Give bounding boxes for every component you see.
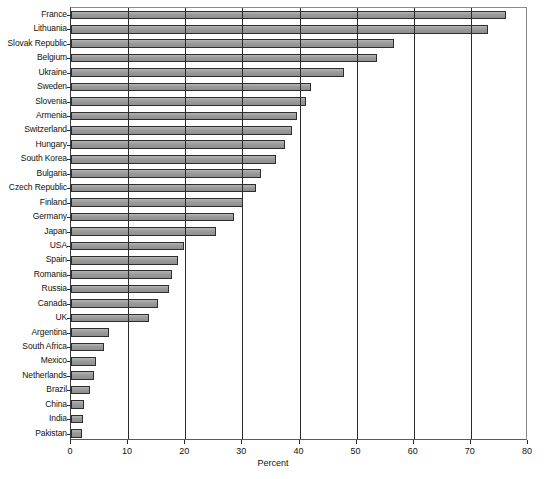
bar	[71, 25, 488, 34]
gridline-10	[128, 8, 129, 439]
category-label: Hungary	[0, 137, 67, 151]
bar-rows	[71, 8, 526, 439]
bar	[71, 357, 96, 366]
category-label: Belgium	[0, 50, 67, 64]
category-label: China	[0, 397, 67, 411]
bar-row	[71, 8, 526, 22]
bar	[71, 184, 256, 193]
bar	[71, 169, 261, 178]
bar	[71, 112, 297, 121]
bar-row	[71, 253, 526, 267]
bar-row	[71, 181, 526, 195]
bar	[71, 11, 506, 20]
bar	[71, 213, 234, 222]
bar-row	[71, 326, 526, 340]
bar-row	[71, 51, 526, 65]
gridline-50	[357, 8, 358, 439]
bar-chart: FranceLithuaniaSlovak RepublicBelgiumUkr…	[0, 0, 546, 479]
category-label: Sweden	[0, 79, 67, 93]
bar	[71, 299, 158, 308]
bar-row	[71, 311, 526, 325]
category-label: Germany	[0, 209, 67, 223]
x-tick-label: 50	[341, 446, 371, 456]
category-label: France	[0, 7, 67, 21]
bar-row	[71, 427, 526, 441]
x-tick-label: 80	[512, 446, 542, 456]
category-label: Russia	[0, 281, 67, 295]
bar	[71, 39, 394, 48]
category-label: Japan	[0, 224, 67, 238]
category-label: Ukraine	[0, 65, 67, 79]
bar	[71, 415, 83, 424]
bar	[71, 97, 306, 106]
x-tick	[299, 440, 300, 444]
bar	[71, 83, 311, 92]
bar-row	[71, 196, 526, 210]
category-label: South Korea	[0, 151, 67, 165]
gridline-30	[242, 8, 243, 439]
category-label: Argentina	[0, 325, 67, 339]
bar-row	[71, 66, 526, 80]
x-tick	[527, 440, 528, 444]
x-tick	[127, 440, 128, 444]
x-tick-label: 0	[55, 446, 85, 456]
bar-row	[71, 22, 526, 36]
category-label: Slovenia	[0, 94, 67, 108]
bar-row	[71, 109, 526, 123]
bar-row	[71, 210, 526, 224]
category-label: Romania	[0, 267, 67, 281]
bar-row	[71, 412, 526, 426]
x-axis-title: Percent	[0, 458, 546, 468]
bar	[71, 328, 109, 337]
bar	[71, 371, 94, 380]
category-label: Canada	[0, 296, 67, 310]
bar	[71, 227, 216, 236]
category-label: Lithuania	[0, 21, 67, 35]
bar-row	[71, 80, 526, 94]
bar-row	[71, 95, 526, 109]
category-label: Spain	[0, 252, 67, 266]
bar-row	[71, 398, 526, 412]
bar-row	[71, 383, 526, 397]
x-tick	[470, 440, 471, 444]
bar	[71, 270, 172, 279]
bar-row	[71, 369, 526, 383]
bar-row	[71, 152, 526, 166]
x-tick	[413, 440, 414, 444]
bar-row	[71, 282, 526, 296]
bar	[71, 68, 344, 77]
category-label: Slovak Republic	[0, 36, 67, 50]
bar	[71, 256, 178, 265]
category-label: Brazil	[0, 382, 67, 396]
bar	[71, 140, 285, 149]
bar-row	[71, 297, 526, 311]
x-tick	[356, 440, 357, 444]
bar	[71, 198, 243, 207]
category-label: Pakistan	[0, 426, 67, 440]
category-label: Netherlands	[0, 368, 67, 382]
category-label: Mexico	[0, 353, 67, 367]
gridline-40	[300, 8, 301, 439]
category-label: Finland	[0, 195, 67, 209]
bar	[71, 400, 84, 409]
x-tick-label: 40	[284, 446, 314, 456]
bar	[71, 126, 292, 135]
bar	[71, 343, 104, 352]
gridline-20	[185, 8, 186, 439]
bar	[71, 314, 149, 323]
x-tick	[184, 440, 185, 444]
bar	[71, 155, 276, 164]
x-tick	[70, 440, 71, 444]
bar-row	[71, 225, 526, 239]
x-tick-label: 20	[169, 446, 199, 456]
bar	[71, 54, 377, 63]
x-tick-label: 70	[455, 446, 485, 456]
category-label: South Africa	[0, 339, 67, 353]
gridline-70	[471, 8, 472, 439]
x-tick	[241, 440, 242, 444]
bar-row	[71, 239, 526, 253]
x-tick-label: 30	[226, 446, 256, 456]
bar	[71, 285, 169, 294]
bar-row	[71, 138, 526, 152]
bar-row	[71, 268, 526, 282]
